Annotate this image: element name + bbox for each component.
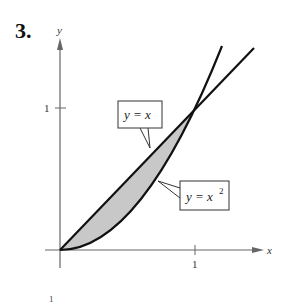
callout-label-parabola: y = x	[184, 189, 213, 204]
graph: y x 1 1 y = x y = x 2 1	[0, 0, 288, 303]
callout-pointer-parabola	[158, 181, 180, 198]
x-axis-arrow-icon	[252, 247, 264, 253]
footer-fragment: 1	[49, 294, 54, 303]
x-tick-label: 1	[192, 258, 198, 270]
callout-label-parabola-exponent: 2	[219, 186, 224, 196]
problem-number: 3.	[15, 18, 32, 44]
x-axis-label: x	[266, 244, 272, 256]
y-tick-label: 1	[44, 102, 50, 114]
parabola-y-equals-x-squared	[60, 46, 222, 250]
y-axis-arrow-icon	[57, 38, 63, 50]
callout-label-line: y = x	[122, 107, 151, 122]
callout-pointer-line	[140, 128, 150, 148]
line-y-equals-x	[60, 48, 254, 250]
y-axis-label: y	[56, 24, 62, 36]
figure: 3. y x 1 1 y = x y = x 2 1	[0, 0, 288, 303]
